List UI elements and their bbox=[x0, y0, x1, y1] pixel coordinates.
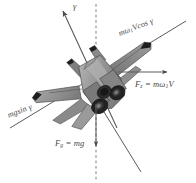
force-diagram-figure: γ mω1Vcos γ Fz = mω1V mgsin γ Fg = mg bbox=[0, 0, 196, 183]
fg-eq: = mg bbox=[63, 138, 84, 148]
diagonal-axis-lower-right bbox=[104, 112, 141, 172]
label-gamma: γ bbox=[73, 2, 76, 11]
label-fz-equals-momega1v: Fz = mω1V bbox=[135, 80, 174, 90]
label-fg-equals-mg: Fg = mg bbox=[55, 139, 84, 149]
fz-eq: = mω bbox=[143, 79, 166, 89]
fz-tail: V bbox=[168, 79, 173, 89]
diagram-canvas bbox=[0, 0, 196, 183]
